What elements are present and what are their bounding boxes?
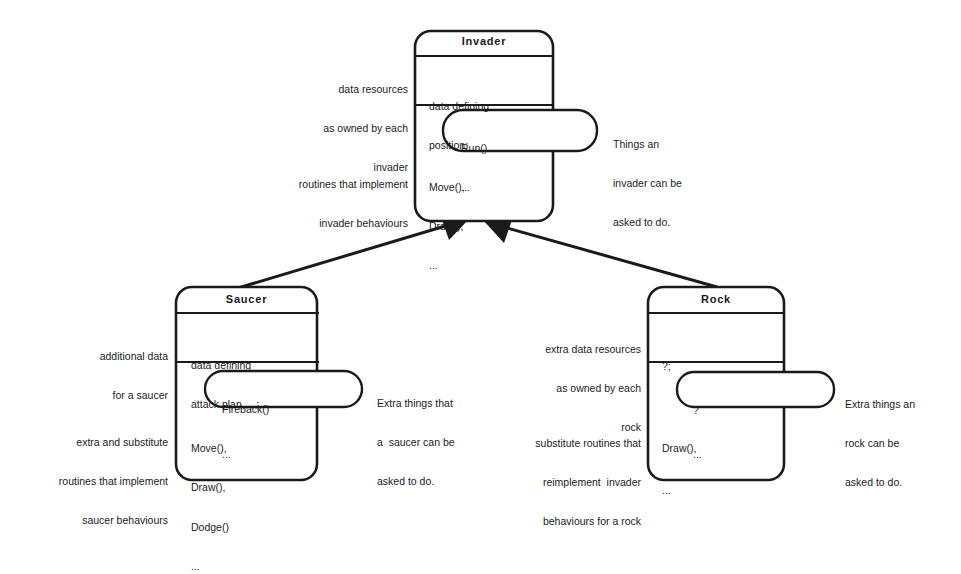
annotation-line: asked to do. [377,475,455,488]
annotation-line: as owned by each [250,122,408,135]
invader-method-line: Move(), [429,181,465,194]
invader-data-line: data defining [429,100,489,113]
annotation-line: routines that implement [240,178,408,191]
annotation-line: extra and substitute [10,436,168,449]
annotation-saucer-data: additional data for a saucer [20,324,168,415]
annotation-line: rock can be [845,437,915,450]
annotation-line: asked to do. [613,216,682,229]
class-title-rock: Rock [648,293,784,305]
saucer-interface-section: Fireback() ... [222,377,269,474]
invader-interface-section: Run() ... [461,116,487,207]
invader-method-line: Draw(), [429,220,465,233]
annotation-line: reimplement invader [470,476,641,489]
rock-method-line: Draw(), [662,442,696,455]
annotation-saucer-methods: extra and substitute routines that imple… [10,410,168,540]
rock-data-section: ?; [662,334,671,386]
invader-methods-section: Move(), Draw(), ... [429,155,465,285]
annotation-line: routines that implement [10,475,168,488]
annotation-line: substitute routines that [470,437,641,450]
annotation-line: a saucer can be [377,436,455,449]
saucer-method-line: Dodge() [191,521,229,534]
annotation-line: for a saucer [20,389,168,402]
annotation-saucer-interface: Extra things that a saucer can be asked … [377,371,455,501]
annotation-invader-interface: Things an invader can be asked to do. [613,112,682,242]
annotation-line: saucer behaviours [10,514,168,527]
class-title-saucer: Saucer [176,293,317,305]
saucer-interface-line: Fireback() [222,403,269,416]
annotation-line: Extra things that [377,397,455,410]
invader-method-line: ... [429,259,465,272]
annotation-rock-methods: substitute routines that reimplement inv… [470,411,641,541]
annotation-line: extra data resources [480,343,641,356]
saucer-method-line: Move(), [191,442,229,455]
saucer-method-line: Draw(), [191,481,229,494]
invader-interface-line: ... [461,181,487,194]
annotation-line: invader behaviours [240,217,408,230]
annotation-line: asked to do. [845,476,915,489]
annotation-rock-interface: Extra things an rock can be asked to do. [845,372,915,502]
annotation-line: Things an [613,138,682,151]
annotation-line: Extra things an [845,398,915,411]
annotation-line: as owned by each [480,382,641,395]
rock-method-line: ... [662,484,696,497]
saucer-data-line: data defining [191,359,259,372]
saucer-method-line: ... [191,560,229,573]
inheritance-arrow-rock [483,217,717,287]
rock-data-line: ?; [662,360,671,373]
annotation-line: behaviours for a rock [470,515,641,528]
annotation-line: additional data [20,350,168,363]
annotation-invader-methods: routines that implement invader behaviou… [240,152,408,243]
annotation-line: data resources [250,83,408,96]
saucer-methods-section: Move(), Draw(), Dodge() ... [191,416,229,574]
rock-methods-section: Draw(), ... [662,416,696,510]
saucer-interface-line: ... [222,448,269,461]
class-title-invader: Invader [415,35,553,47]
annotation-line: invader can be [613,177,682,190]
invader-interface-line: Run() [461,142,487,155]
